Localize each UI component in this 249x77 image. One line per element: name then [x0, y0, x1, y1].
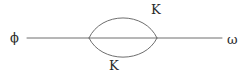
diagram-canvas	[0, 0, 249, 77]
loop-arc-top	[89, 18, 157, 38]
loop-arc-bottom	[89, 38, 157, 57]
incoming-particle-label: ϕ	[10, 31, 19, 44]
feynman-diagram-figure: ϕ ω K K	[0, 0, 249, 77]
loop-bottom-label: K	[109, 59, 119, 72]
loop-top-label: K	[151, 3, 161, 16]
outgoing-particle-label: ω	[227, 33, 238, 46]
